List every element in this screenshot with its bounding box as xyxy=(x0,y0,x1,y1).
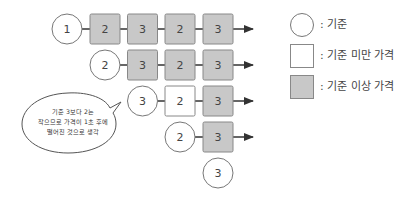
sequence-row: 323 xyxy=(128,86,254,116)
price-value: 3 xyxy=(215,59,222,72)
speech-bubble-line: 작으므로 가격이 1초 후에 xyxy=(30,117,116,127)
sequence-row: 23 xyxy=(165,122,253,152)
speech-bubble-line: 기준 3보다 2는 xyxy=(30,107,116,117)
price-value: 2 xyxy=(177,95,184,108)
price-value: 2 xyxy=(102,23,109,36)
white-square-icon xyxy=(290,44,314,68)
gray-square-icon xyxy=(290,75,314,99)
price-value: 3 xyxy=(215,131,222,144)
price-value: 3 xyxy=(139,59,146,72)
price-value: 3 xyxy=(215,23,222,36)
price-value: 3 xyxy=(139,23,146,36)
reference-value: 3 xyxy=(215,167,222,180)
price-sequence-diagram: 123232323323233 xyxy=(0,0,411,201)
legend-label: : 기준 미만 가격 xyxy=(320,44,394,68)
sequence-row: 12323 xyxy=(52,14,253,44)
sequence-row: 3 xyxy=(203,158,233,188)
reference-value: 2 xyxy=(177,131,184,144)
sequence-row: 2323 xyxy=(90,50,253,80)
price-value: 2 xyxy=(177,59,184,72)
legend-label: : 기준 xyxy=(320,13,347,37)
speech-bubble-line: 떨어진 것으로 생각 xyxy=(30,127,116,137)
circle-icon xyxy=(290,13,314,37)
legend-label: : 기준 이상 가격 xyxy=(320,75,394,99)
speech-bubble-text: 기준 3보다 2는 작으므로 가격이 1초 후에 떨어진 것으로 생각 xyxy=(30,107,116,137)
reference-value: 3 xyxy=(139,95,146,108)
reference-value: 2 xyxy=(102,59,109,72)
price-value: 3 xyxy=(215,95,222,108)
price-value: 2 xyxy=(177,23,184,36)
reference-value: 1 xyxy=(64,23,71,36)
